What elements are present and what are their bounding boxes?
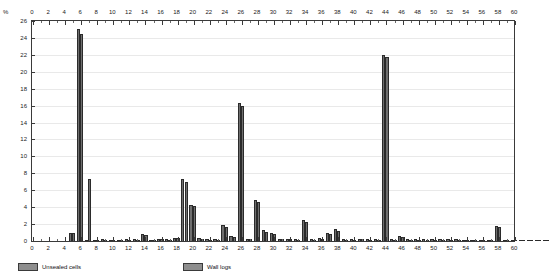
x-tick-bottom [354, 237, 355, 241]
x-tick-top [515, 21, 516, 25]
x-tick-top [242, 21, 243, 25]
gridline [32, 72, 514, 73]
x-tick-label: 2 [46, 245, 49, 251]
x-tick-minor [202, 21, 203, 23]
x-tick-label: 14 [141, 245, 148, 251]
x-tick-top [49, 21, 50, 25]
y-tick [32, 173, 35, 174]
x-tick-label: 40 [350, 9, 357, 15]
x-tick-label: 20 [189, 9, 196, 15]
x-tick-label: 6 [79, 9, 82, 15]
x-tick-label: 10 [109, 9, 116, 15]
bar [241, 106, 244, 241]
y-tick-label: 12 [12, 136, 27, 142]
x-tick-label: 4 [62, 9, 65, 15]
x-tick-minor [314, 239, 315, 241]
x-tick-label: 50 [430, 9, 437, 15]
x-tick-label: 28 [254, 9, 261, 15]
x-tick-minor [234, 239, 235, 241]
x-tick-minor [105, 239, 106, 241]
legend-item[interactable]: Wall logs [183, 263, 231, 271]
y-tick-label: 2 [12, 221, 27, 227]
x-tick-label: 54 [462, 245, 469, 251]
x-tick-minor [362, 21, 363, 23]
x-tick-bottom [451, 237, 452, 241]
x-tick-minor [202, 239, 203, 241]
x-tick-minor [443, 239, 444, 241]
x-tick-label: 48 [414, 245, 421, 251]
y-tick-label: 26 [12, 18, 27, 24]
y-tick [32, 106, 35, 107]
x-tick-top [370, 21, 371, 25]
x-tick-label: 4 [62, 245, 65, 251]
bar [88, 179, 91, 241]
x-tick-label: 52 [446, 245, 453, 251]
x-tick-top [290, 21, 291, 25]
x-tick-label: 26 [238, 9, 245, 15]
x-tick-bottom [258, 237, 259, 241]
x-tick-top [194, 21, 195, 25]
legend-label: Unsealed cells [42, 264, 81, 271]
x-tick-top [97, 21, 98, 25]
x-tick-label: 36 [318, 9, 325, 15]
x-tick-label: 44 [382, 245, 389, 251]
x-tick-minor [282, 21, 283, 23]
x-tick-label: 60 [511, 245, 518, 251]
bar [522, 240, 525, 241]
x-tick-label: 56 [479, 9, 486, 15]
x-tick-minor [346, 21, 347, 23]
x-tick-minor [475, 21, 476, 23]
x-tick-minor [186, 21, 187, 23]
x-tick-minor [154, 239, 155, 241]
x-tick-label: 2 [46, 9, 49, 15]
x-tick-label: 24 [221, 245, 228, 251]
y-tick-label: 8 [12, 170, 27, 176]
bar [193, 206, 196, 241]
x-tick-minor [411, 21, 412, 23]
x-tick-top [435, 21, 436, 25]
x-tick-bottom [483, 237, 484, 241]
x-tick-label: 58 [495, 245, 502, 251]
x-tick-bottom [210, 237, 211, 241]
x-tick-label: 36 [318, 245, 325, 251]
gridline [32, 106, 514, 107]
x-tick-minor [234, 21, 235, 23]
x-tick-minor [41, 21, 42, 23]
x-tick-label: 58 [495, 9, 502, 15]
gridline [32, 224, 514, 225]
x-tick-top [113, 21, 114, 25]
x-tick-label: 44 [382, 9, 389, 15]
x-tick-minor [346, 239, 347, 241]
x-tick-bottom [306, 237, 307, 241]
x-tick-top [178, 21, 179, 25]
x-tick-minor [137, 239, 138, 241]
x-tick-label: 8 [95, 245, 98, 251]
legend-item[interactable]: Unsealed cells [18, 263, 81, 271]
x-tick-top [338, 21, 339, 25]
x-tick-minor [186, 239, 187, 241]
x-tick-minor [57, 21, 58, 23]
x-tick-label: 8 [95, 9, 98, 15]
x-tick-label: 56 [479, 245, 486, 251]
x-tick-minor [154, 21, 155, 23]
x-tick-top [226, 21, 227, 25]
gridline [32, 156, 514, 157]
legend-swatch-icon [183, 263, 203, 271]
x-tick-label: 22 [205, 9, 212, 15]
x-tick-minor [459, 239, 460, 241]
x-tick-label: 46 [398, 9, 405, 15]
x-tick-top [467, 21, 468, 25]
legend-swatch-icon [18, 263, 38, 271]
x-tick-minor [507, 21, 508, 23]
x-tick-label: 0 [30, 9, 33, 15]
x-tick-bottom [194, 237, 195, 241]
y-tick [32, 190, 35, 191]
x-tick-minor [89, 21, 90, 23]
y-tick-label: 14 [12, 120, 27, 126]
x-tick-minor [170, 239, 171, 241]
x-tick-label: 14 [141, 9, 148, 15]
x-tick-minor [266, 21, 267, 23]
y-tick [32, 72, 35, 73]
x-tick-minor [57, 239, 58, 241]
